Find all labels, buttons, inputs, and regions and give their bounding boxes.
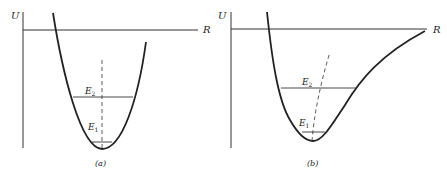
label-e2-b: E2 (301, 77, 313, 88)
label-e2-a: E2 (84, 86, 96, 97)
u-axis-label-a: U (11, 10, 20, 21)
r-axis-label-b: R (432, 24, 441, 35)
parabola-curve (53, 13, 146, 149)
caption-a: (a) (95, 159, 106, 168)
anharmonic-curve (267, 12, 425, 141)
label-e1-b: E1 (298, 118, 309, 129)
midpoint-locus-b (312, 52, 330, 141)
panel-b: U R E2 E1 (b) (218, 10, 441, 168)
label-e1-a: E1 (87, 122, 98, 133)
potential-energy-diagram: U R E2 E1 (a) U R E2 E1 (b) (0, 0, 447, 173)
u-axis-label-b: U (218, 10, 227, 21)
r-axis-label-a: R (202, 24, 211, 35)
panel-a: U R E2 E1 (a) (11, 10, 211, 168)
caption-b: (b) (307, 159, 318, 168)
